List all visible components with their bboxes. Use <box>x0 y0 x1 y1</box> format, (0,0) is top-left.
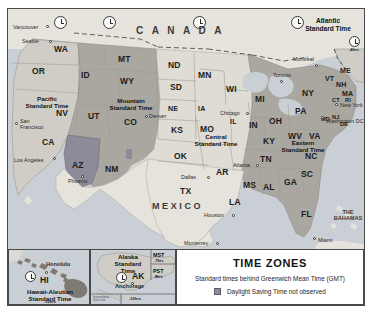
zone-label-pacific: Pacific Standard Time <box>16 95 78 109</box>
city-label-chicago: Chicago <box>220 111 240 117</box>
atlantic-offset-label: -4hrs <box>349 48 359 52</box>
clock-icon-pacific <box>54 16 67 29</box>
state-label-in: IN <box>249 121 258 130</box>
state-label-wa: WA <box>54 45 68 54</box>
state-label-hi: HI <box>40 276 49 285</box>
city-label-anchorage: Anchorage <box>115 284 144 290</box>
zone-label-mountain: Mountain Standard Time <box>98 97 164 111</box>
state-label-az: AZ <box>72 161 84 170</box>
city-label-montreal: Montreal <box>293 57 314 63</box>
state-label-oh: OH <box>269 117 282 126</box>
state-label-pa: PA <box>295 107 307 116</box>
hawaii-inset: Honolulu HI Hawaii-Aleutian Standard Tim… <box>8 249 90 305</box>
country-label-canada: C A N A D A <box>136 26 224 36</box>
state-label-sd: SD <box>170 83 182 92</box>
city-label-new-york: New York <box>340 103 363 109</box>
state-label-ga: GA <box>284 178 297 187</box>
state-label-ky: KY <box>263 137 275 146</box>
city-label-seattle: Seattle <box>22 39 39 45</box>
legend-swatch-no-dst <box>214 288 221 295</box>
state-label-al: AL <box>263 183 275 192</box>
state-label-mt: MT <box>118 55 131 64</box>
alaska-pst-tag: PST -8hrs <box>153 269 163 279</box>
state-label-ny: NY <box>302 89 314 98</box>
state-label-vt: VT <box>325 75 334 82</box>
city-label-vancouver: Vancouver <box>13 25 38 31</box>
alaska-mst-tag: MST -7hrs <box>153 253 164 263</box>
city-label-toronto: Toronto <box>273 73 291 79</box>
clock-icon-mountain <box>103 16 116 29</box>
state-label-la: LA <box>229 198 241 207</box>
state-label-id: ID <box>81 71 90 80</box>
country-label-bahamas: THE BAHAMAS <box>328 209 364 222</box>
zone-label-eastern: Eastern Standard Time <box>270 139 336 153</box>
state-label-me: ME <box>340 67 351 74</box>
country-label-mexico: MEXICO <box>152 202 203 211</box>
state-label-il: IL <box>230 118 237 125</box>
main-map: -4hrs Pacific Standard Time Mountain Sta… <box>8 9 364 249</box>
state-label-ar: AR <box>216 168 229 177</box>
city-label-denver: Denver <box>149 114 166 120</box>
state-label-ak: AK <box>132 272 145 281</box>
state-label-or: OR <box>32 67 45 76</box>
city-label-miami: Miami <box>318 238 332 244</box>
state-label-mo: MO <box>200 125 214 134</box>
state-label-mn: MN <box>198 71 212 80</box>
state-label-ms: MS <box>243 181 256 190</box>
city-label-washington-dc: Washington DC <box>326 119 364 125</box>
state-label-fl: FL <box>301 210 312 219</box>
state-label-sc: SC <box>301 170 313 179</box>
state-label-ut: UT <box>88 112 100 121</box>
legend-subtitle: Standard times behind Greenwich Mean Tim… <box>177 275 363 282</box>
state-label-nd: ND <box>168 61 181 70</box>
date-line-label: International Date Line <box>93 296 109 303</box>
state-label-tx: TX <box>180 187 191 196</box>
state-label-ok: OK <box>174 152 187 161</box>
legend-dst-row: Daylight Saving Time not observed <box>177 288 363 295</box>
city-label-phoenix: Phoenix <box>68 179 87 185</box>
clock-icon-hawaii <box>25 271 36 282</box>
city-label-honolulu: Honolulu <box>46 262 70 268</box>
alaska-zone-label: Alaska Standard Time <box>99 253 157 274</box>
state-label-nc: NC <box>305 152 318 161</box>
state-label-mi: MI <box>255 95 265 104</box>
legend-panel: TIME ZONES Standard times behind Greenwi… <box>176 249 364 305</box>
city-label-houston: Houston <box>204 213 224 219</box>
alaska-inset: Alaska Standard Time MST -7hrs PST -8hrs… <box>90 249 176 305</box>
city-label-san-francisco: San Francisco <box>20 119 43 131</box>
state-label-tn: TN <box>260 155 272 164</box>
alaska-date-line-offset: -10hrs <box>129 297 141 301</box>
state-label-ks: KS <box>171 126 183 135</box>
zone-label-atlantic: Atlantic Standard Time <box>294 17 362 32</box>
clock-icon-alaska <box>116 272 127 283</box>
clock-icon-atlantic <box>349 36 360 47</box>
state-label-nh: NH <box>336 81 347 88</box>
state-label-wy: WY <box>120 77 134 86</box>
city-label-los-angeles: Los Angeles <box>14 158 43 164</box>
city-label-atlanta: Atlanta <box>233 163 250 169</box>
city-label-monterrey: Monterrey <box>184 241 208 247</box>
state-label-nm: NM <box>105 165 119 174</box>
city-label-dallas: Dallas <box>181 175 196 181</box>
hawaii-offset-label: -10hrs <box>9 300 90 304</box>
legend-title: TIME ZONES <box>177 257 363 269</box>
state-label-ia: IA <box>198 105 205 112</box>
legend-dst-label: Daylight Saving Time not observed <box>227 288 326 295</box>
time-zone-map-screenshot: -4hrs Pacific Standard Time Mountain Sta… <box>0 0 372 321</box>
zone-label-central: Central Standard Time <box>184 133 248 147</box>
map-card: -4hrs Pacific Standard Time Mountain Sta… <box>7 8 365 306</box>
state-label-ne: NE <box>168 105 178 112</box>
state-label-nv: NV <box>56 109 68 118</box>
state-label-va: VA <box>309 132 321 141</box>
state-label-ca: CA <box>42 138 55 147</box>
state-label-wi: WI <box>226 85 237 94</box>
state-label-co: CO <box>124 118 137 127</box>
state-label-wv: WV <box>288 132 302 141</box>
